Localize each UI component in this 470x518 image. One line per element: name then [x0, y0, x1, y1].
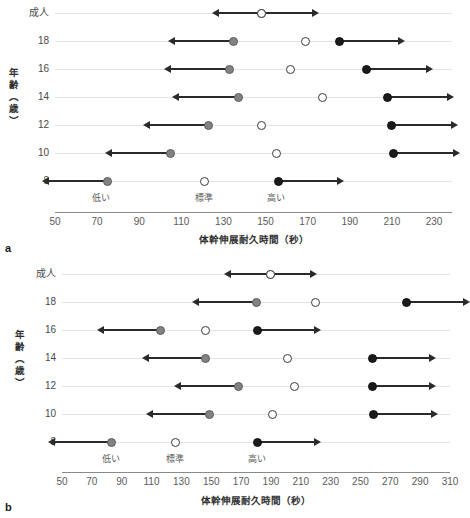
data-point-open-16	[201, 326, 210, 335]
data-point-open-14	[283, 354, 292, 363]
x-axis-title: 体幹伸展耐久時間（秒）	[62, 495, 450, 506]
data-point-gray-12	[204, 121, 213, 130]
x-tick-190: 190	[335, 217, 365, 227]
x-tick-150: 150	[251, 217, 281, 227]
zone-label-標準: 標準	[182, 193, 226, 203]
row-label-16: 16	[14, 325, 56, 335]
data-point-black-18	[402, 298, 411, 307]
data-point-black-10	[389, 149, 398, 158]
x-tick-190: 190	[256, 477, 286, 487]
data-point-open-10	[268, 410, 277, 419]
zone-label-低い: 低い	[89, 454, 133, 464]
arrow-head-icon	[212, 9, 219, 17]
adult-arrow-left	[219, 12, 261, 14]
x-tick-90: 90	[107, 477, 137, 487]
data-point-open-18	[301, 37, 310, 46]
data-point-open-16	[286, 65, 295, 74]
row-label-10: 10	[14, 409, 56, 419]
data-point-gray-12	[234, 382, 243, 391]
row-label-14: 14	[14, 353, 56, 363]
data-point-black-8	[253, 438, 262, 447]
x-tick-170: 170	[226, 477, 256, 487]
arrow-head-icon	[312, 9, 319, 17]
x-tick-110: 110	[137, 477, 167, 487]
x-axis-title: 体幹伸展耐久時間（秒）	[55, 234, 452, 245]
arrow-head-icon	[310, 270, 317, 278]
arrow-right-16	[257, 329, 314, 331]
plot-area-a: 年齢（歳）成人18161412108低い標準高い5070901101301501…	[0, 0, 463, 258]
arrow-left-16	[171, 68, 230, 70]
grid-line	[55, 181, 452, 182]
row-label-10: 10	[7, 148, 49, 158]
arrow-right-18	[339, 40, 398, 42]
row-label-成人: 成人	[7, 8, 49, 18]
zone-label-標準: 標準	[153, 454, 197, 464]
arrow-left-18	[199, 301, 256, 303]
data-point-open-12	[290, 382, 299, 391]
arrow-head-icon	[192, 298, 199, 306]
data-point-gray-16	[156, 326, 165, 335]
arrow-left-12	[150, 124, 209, 126]
data-point-black-12	[387, 121, 396, 130]
data-point-open-8	[200, 177, 209, 186]
arrow-left-10	[153, 413, 210, 415]
zone-label-高い: 高い	[254, 193, 298, 203]
data-point-gray-8	[103, 177, 112, 186]
arrow-head-icon	[105, 149, 112, 157]
arrow-head-icon	[398, 37, 405, 45]
arrow-head-icon	[451, 121, 458, 129]
arrow-head-icon	[142, 354, 149, 362]
arrow-head-icon	[48, 438, 55, 446]
x-tick-50: 50	[47, 477, 77, 487]
arrow-left-18	[175, 40, 234, 42]
data-point-gray-10	[205, 410, 214, 419]
arrow-head-icon	[314, 326, 321, 334]
data-point-gray-14	[201, 354, 210, 363]
row-label-14: 14	[7, 92, 49, 102]
x-tick-130: 130	[166, 477, 196, 487]
arrow-head-icon	[337, 177, 344, 185]
x-tick-210: 210	[286, 477, 316, 487]
arrow-right-10	[394, 152, 453, 154]
x-tick-50: 50	[40, 217, 70, 227]
arrow-right-8	[278, 180, 337, 182]
x-tick-90: 90	[124, 217, 154, 227]
panel-letter-b: b	[5, 502, 12, 513]
data-point-black-12	[368, 382, 377, 391]
x-tick-70: 70	[82, 217, 112, 227]
arrow-head-icon	[172, 93, 179, 101]
arrow-left-14	[179, 96, 238, 98]
zone-label-高い: 高い	[235, 454, 279, 464]
arrow-head-icon	[447, 93, 454, 101]
data-point-black-16	[362, 65, 371, 74]
arrow-left-10	[112, 152, 171, 154]
row-label-16: 16	[7, 64, 49, 74]
data-point-open-14	[318, 93, 327, 102]
arrow-right-10	[374, 413, 431, 415]
x-tick-170: 170	[293, 217, 323, 227]
data-point-open-10	[272, 149, 281, 158]
zone-label-低い: 低い	[79, 193, 123, 203]
data-point-black-18	[335, 37, 344, 46]
data-point-gray-8	[107, 438, 116, 447]
arrow-head-icon	[426, 65, 433, 73]
arrow-right-18	[407, 301, 464, 303]
arrow-left-8	[49, 180, 108, 182]
data-point-black-14	[368, 354, 377, 363]
x-tick-150: 150	[196, 477, 226, 487]
arrow-right-8	[257, 441, 314, 443]
data-point-black-14	[383, 93, 392, 102]
arrow-head-icon	[224, 270, 231, 278]
arrow-right-12	[392, 124, 451, 126]
arrow-left-16	[104, 329, 161, 331]
row-label-12: 12	[7, 120, 49, 130]
data-point-open-12	[257, 121, 266, 130]
arrow-right-16	[367, 68, 426, 70]
panel-b: 年齢（歳）成人18161412108低い標準高い5070901101301501…	[0, 258, 463, 518]
arrow-head-icon	[146, 410, 153, 418]
arrow-head-icon	[143, 121, 150, 129]
x-tick-230: 230	[419, 217, 449, 227]
data-point-open-18	[311, 298, 320, 307]
x-tick-70: 70	[77, 477, 107, 487]
row-label-成人: 成人	[14, 269, 56, 279]
